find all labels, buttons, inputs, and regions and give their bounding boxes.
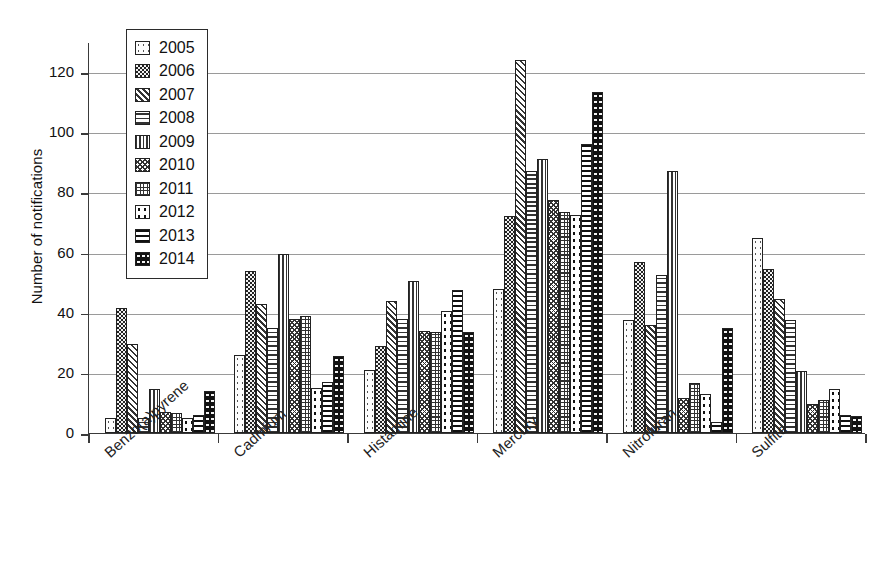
x-tick-mark xyxy=(865,434,867,443)
bar-mercury-2007 xyxy=(515,60,526,433)
legend-swatch-icon xyxy=(135,158,150,172)
legend-swatch-icon xyxy=(135,252,150,266)
legend-label: 2012 xyxy=(159,204,195,220)
bar-group xyxy=(234,43,344,433)
legend-item-2012[interactable]: 2012 xyxy=(135,201,195,225)
bar-mercury-2009 xyxy=(537,159,548,433)
bar-group xyxy=(623,43,733,433)
bar-sulfite-2007 xyxy=(774,299,785,433)
y-tick-label: 80 xyxy=(28,183,74,200)
bar-histamine-2012 xyxy=(441,311,452,433)
bar-benzo-a-pyrene-2014 xyxy=(204,391,215,433)
legend-label: 2013 xyxy=(159,228,195,244)
bar-cadmium-2006 xyxy=(245,271,256,433)
legend-swatch-icon xyxy=(135,135,150,149)
bar-benzo-a-pyrene-2006 xyxy=(116,308,127,433)
bar-sulfite-2014 xyxy=(851,416,862,433)
bar-sulfite-2011 xyxy=(818,400,829,433)
x-tick-mark xyxy=(347,434,349,443)
legend-label: 2008 xyxy=(159,110,195,126)
legend-swatch-icon xyxy=(135,41,150,55)
bar-benzo-a-pyrene-2012 xyxy=(182,418,193,433)
bar-cadmium-2007 xyxy=(256,304,267,433)
legend-label: 2011 xyxy=(159,181,193,197)
y-tick-label: 40 xyxy=(28,304,74,321)
legend-item-2013[interactable]: 2013 xyxy=(135,224,195,248)
y-tick-label: 60 xyxy=(28,244,74,261)
bar-nitrofuran-2013 xyxy=(711,422,722,433)
bar-benzo-a-pyrene-2013 xyxy=(193,415,204,433)
bar-benzo-a-pyrene-2011 xyxy=(171,413,182,433)
bar-cadmium-2012 xyxy=(311,388,322,433)
bar-sulfite-2009 xyxy=(796,371,807,433)
legend-item-2006[interactable]: 2006 xyxy=(135,60,195,84)
bar-nitrofuran-2012 xyxy=(700,394,711,433)
legend-item-2011[interactable]: 2011 xyxy=(135,177,195,201)
bar-nitrofuran-2005 xyxy=(623,320,634,433)
bar-histamine-2005 xyxy=(364,370,375,433)
bar-histamine-2014 xyxy=(463,332,474,433)
y-tick-mark xyxy=(81,133,89,135)
legend-label: 2007 xyxy=(159,87,195,103)
legend-item-2009[interactable]: 2009 xyxy=(135,130,195,154)
x-tick-mark xyxy=(218,434,220,443)
bar-mercury-2011 xyxy=(559,212,570,433)
legend-label: 2010 xyxy=(159,157,195,173)
bar-mercury-2005 xyxy=(493,289,504,433)
bar-mercury-2013 xyxy=(581,144,592,433)
y-tick-label: 0 xyxy=(28,424,74,441)
bar-nitrofuran-2014 xyxy=(722,328,733,433)
bar-group xyxy=(752,43,862,433)
bar-mercury-2006 xyxy=(504,216,515,433)
bar-mercury-2010 xyxy=(548,200,559,433)
bar-cadmium-2005 xyxy=(234,355,245,433)
y-tick-mark xyxy=(81,374,89,376)
bar-cadmium-2009 xyxy=(278,254,289,433)
bar-group xyxy=(364,43,474,433)
bar-nitrofuran-2011 xyxy=(689,383,700,433)
bar-cadmium-2014 xyxy=(333,356,344,433)
bar-mercury-2008 xyxy=(526,171,537,433)
legend-label: 2014 xyxy=(159,251,195,267)
bar-histamine-2006 xyxy=(375,346,386,433)
bar-chart: Number of notifications 020406080100120 … xyxy=(0,0,889,569)
legend-item-2014[interactable]: 2014 xyxy=(135,248,195,272)
y-tick-mark xyxy=(81,254,89,256)
x-tick-mark xyxy=(88,434,90,443)
y-tick-label: 100 xyxy=(28,123,74,140)
y-tick-mark xyxy=(81,193,89,195)
y-tick-mark xyxy=(81,73,89,75)
legend-label: 2009 xyxy=(159,134,195,150)
bar-group xyxy=(493,43,603,433)
bar-sulfite-2012 xyxy=(829,389,840,433)
y-tick-label: 120 xyxy=(28,63,74,80)
x-tick-mark xyxy=(736,434,738,443)
bar-sulfite-2008 xyxy=(785,320,796,433)
bar-mercury-2012 xyxy=(570,215,581,433)
legend-swatch-icon xyxy=(135,182,150,196)
bar-cadmium-2013 xyxy=(322,382,333,433)
legend-item-2008[interactable]: 2008 xyxy=(135,107,195,131)
legend-item-2007[interactable]: 2007 xyxy=(135,83,195,107)
bar-nitrofuran-2006 xyxy=(634,262,645,433)
bar-histamine-2010 xyxy=(419,331,430,433)
bar-nitrofuran-2009 xyxy=(667,171,678,433)
bar-histamine-2007 xyxy=(386,301,397,433)
legend-item-2005[interactable]: 2005 xyxy=(135,36,195,60)
legend-swatch-icon xyxy=(135,111,150,125)
bar-sulfite-2006 xyxy=(763,269,774,433)
bar-sulfite-2010 xyxy=(807,404,818,433)
x-tick-mark xyxy=(606,434,608,443)
bar-cadmium-2010 xyxy=(289,319,300,433)
bar-histamine-2011 xyxy=(430,332,441,433)
bar-cadmium-2011 xyxy=(300,316,311,433)
y-tick-mark xyxy=(81,314,89,316)
legend-item-2010[interactable]: 2010 xyxy=(135,154,195,178)
bar-sulfite-2013 xyxy=(840,415,851,433)
bar-mercury-2014 xyxy=(592,92,603,433)
y-tick-label: 20 xyxy=(28,364,74,381)
bar-histamine-2013 xyxy=(452,290,463,433)
legend-label: 2005 xyxy=(159,40,195,56)
legend-swatch-icon xyxy=(135,229,150,243)
legend-swatch-icon xyxy=(135,205,150,219)
